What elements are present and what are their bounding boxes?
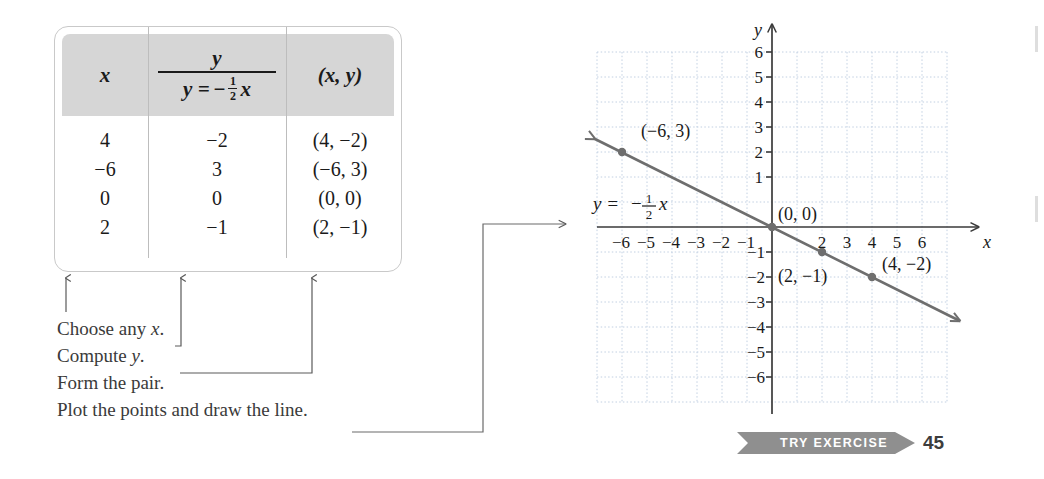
- table-cell-x: 0: [100, 184, 110, 213]
- coordinate-graph: −6 −5 −4 −3 −2 −1 2 3 4 5 6 6 5 4 3 2 1 …: [575, 14, 1015, 424]
- plotted-line-y-equals-neg-half-x: [595, 139, 960, 321]
- x-tick-labels: −6 −5 −4 −3 −2 −1 2 3 4 5 6: [612, 233, 926, 252]
- page-edge-mark: [1035, 26, 1038, 52]
- connector-to-graph: [330, 200, 590, 440]
- y-tick-label: 3: [755, 118, 764, 137]
- annotation-compute-y: Compute y.: [57, 345, 145, 367]
- y-tick-label: −4: [747, 318, 766, 337]
- try-exercise-banner[interactable]: TRY EXERCISE 45: [737, 432, 944, 454]
- annotation-punctuation: .: [159, 318, 164, 339]
- y-tick-label: 5: [755, 68, 764, 87]
- y-tick-label: 4: [755, 93, 764, 112]
- x-tick-label: −6: [612, 233, 630, 252]
- equation-sign: −: [631, 193, 642, 214]
- x-tick-label: 3: [843, 233, 852, 252]
- y-tick-label: −6: [747, 368, 765, 387]
- header-y-fraction: y y = − 1 2 x: [158, 47, 276, 103]
- table-header-row: x y y = − 1 2: [62, 34, 394, 116]
- table-column-y: −2 3 0 −1: [148, 122, 286, 264]
- x-tick-label: −3: [687, 233, 705, 252]
- y-tick-label: 2: [755, 143, 764, 162]
- plot-point: [618, 148, 626, 156]
- table-header-y: y y = − 1 2 x: [148, 34, 286, 116]
- x-axis-label: x: [982, 232, 991, 252]
- x-tick-label: −4: [662, 233, 681, 252]
- arrow-compute-y: [175, 278, 181, 346]
- header-pair-label: (x, y): [318, 63, 362, 88]
- table-cell-x: 2: [100, 213, 110, 242]
- x-tick-label: −5: [637, 233, 655, 252]
- header-y-equation-variable: x: [240, 78, 251, 101]
- plot-point: [768, 223, 776, 231]
- banner-chevron-shape: TRY EXERCISE: [737, 432, 915, 454]
- annotation-text: Compute: [57, 345, 131, 366]
- table-cell-y: 0: [212, 184, 222, 213]
- table-cell-x: 4: [100, 126, 110, 155]
- table-cell-y: −2: [206, 126, 227, 155]
- y-tick-label: −3: [747, 293, 765, 312]
- x-tick-label: 4: [868, 233, 877, 252]
- y-axis-label: y: [752, 20, 762, 40]
- x-tick-label: 6: [918, 233, 927, 252]
- header-y-equation-lhs: y =: [183, 78, 210, 101]
- annotation-plot-points: Plot the points and draw the line.: [57, 399, 308, 421]
- point-label-0-0: (0, 0): [778, 204, 817, 225]
- x-tick-label: 2: [818, 233, 827, 252]
- annotation-variable: y: [131, 345, 139, 366]
- header-y-half-fraction: 1 2: [228, 75, 237, 102]
- banner-label: TRY EXERCISE: [737, 432, 915, 454]
- y-tick-label: 6: [755, 43, 764, 62]
- equation-fraction-numerator: 1: [646, 191, 653, 206]
- table-cell-pair: (4, −2): [313, 126, 368, 155]
- arrow-form-pair: [180, 278, 312, 373]
- y-tick-label: −1: [747, 243, 765, 262]
- point-label-4-neg2: (4, −2): [882, 254, 931, 275]
- table-column-x: 4 −6 0 2: [62, 122, 148, 264]
- header-y-equation-sign: −: [213, 78, 226, 101]
- y-tick-label: −5: [747, 343, 765, 362]
- y-tick-label: 1: [755, 168, 764, 187]
- annotation-text: Plot the points and draw the line.: [57, 399, 308, 420]
- header-y-equation: y = − 1 2 x: [183, 73, 251, 103]
- annotation-punctuation: .: [140, 345, 145, 366]
- annotation-text: Choose any: [57, 318, 151, 339]
- table-cell-y: 3: [212, 155, 222, 184]
- equation-fraction-denominator: 2: [646, 207, 653, 222]
- header-y-numerator: y: [198, 47, 235, 71]
- annotation-choose-any-x: Choose any x.: [57, 318, 164, 340]
- annotation-form-the-pair: Form the pair.: [57, 372, 164, 394]
- y-tick-marks: [766, 52, 772, 377]
- page-edge-mark: [1035, 196, 1038, 222]
- table-cell-y: −1: [206, 213, 227, 242]
- header-y-half-numerator: 1: [230, 75, 236, 87]
- point-label-2-neg1: (2, −1): [778, 266, 827, 287]
- equation-label: y = − 1 2 x: [591, 191, 668, 222]
- x-tick-label: 5: [893, 233, 902, 252]
- table-header-x: x: [62, 34, 148, 116]
- figure-stage: x y y = − 1 2: [0, 0, 1044, 479]
- y-tick-label: −2: [747, 268, 765, 287]
- point-label-neg6-3: (−6, 3): [641, 121, 690, 142]
- exercise-number: 45: [923, 432, 944, 454]
- equation-variable: x: [658, 193, 668, 214]
- annotation-text: Form the pair.: [57, 372, 164, 393]
- header-x-label: x: [100, 63, 111, 88]
- table-cell-pair: (−6, 3): [313, 155, 368, 184]
- table-cell-x: −6: [94, 155, 115, 184]
- plot-point: [868, 273, 876, 281]
- table-header-pair: (x, y): [286, 34, 394, 116]
- x-tick-label: −2: [712, 233, 730, 252]
- equation-lhs: y =: [591, 193, 619, 214]
- header-y-half-denominator: 2: [230, 90, 236, 102]
